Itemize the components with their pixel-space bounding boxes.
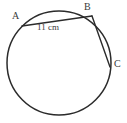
chord-ab-measure-label: 11 cm (37, 23, 59, 32)
point-label-b: B (84, 2, 91, 12)
geometry-figure: A B C 11 cm (0, 0, 127, 123)
point-label-c: C (114, 59, 121, 69)
point-label-a: A (12, 11, 19, 21)
chord-bc (92, 16, 110, 67)
